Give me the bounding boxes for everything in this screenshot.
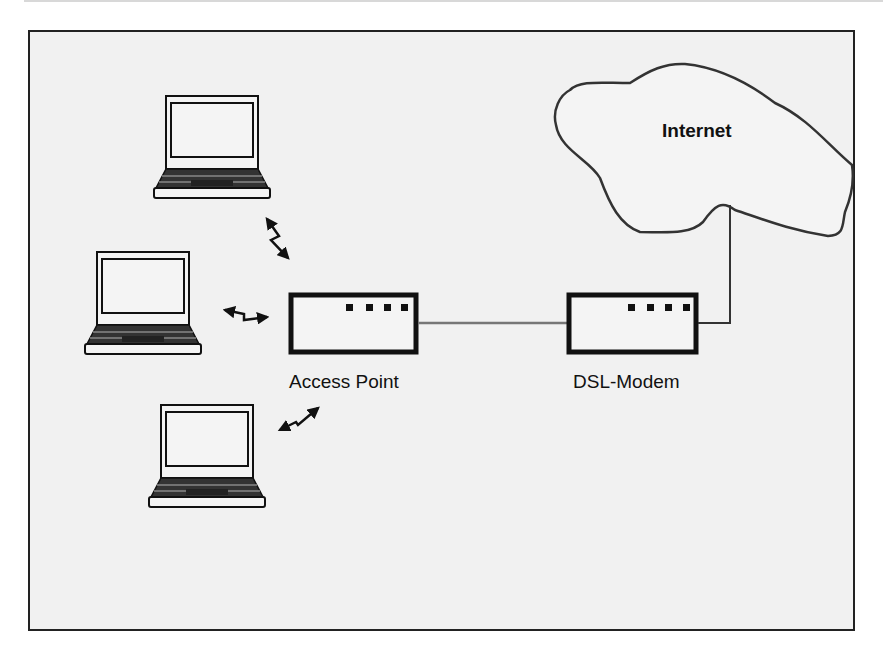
internet-label: Internet — [662, 120, 732, 142]
access-point-device — [291, 295, 416, 352]
access-point-label: Access Point — [289, 371, 399, 393]
wireless-link-icon-3 — [280, 408, 318, 430]
wire-modem-to-internet — [698, 211, 730, 323]
wireless-link-icon-2 — [225, 310, 267, 320]
dsl-modem-device — [569, 295, 696, 352]
dsl-modem-label: DSL-Modem — [573, 371, 680, 393]
wireless-link-icon-1 — [267, 219, 288, 258]
laptop-icon-1 — [154, 96, 270, 198]
laptop-icon-2 — [85, 252, 201, 354]
internet-cloud-icon — [555, 64, 853, 236]
laptop-icon-3 — [149, 405, 265, 507]
network-diagram — [0, 0, 883, 658]
